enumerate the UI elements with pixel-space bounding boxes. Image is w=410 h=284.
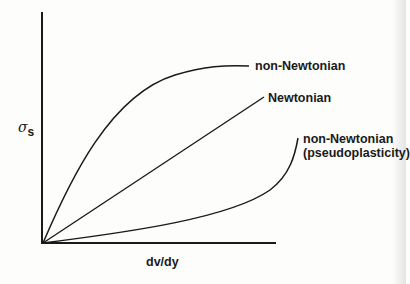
label-newtonian: Newtonian	[268, 91, 331, 105]
curve-pseudoplastic	[43, 138, 298, 243]
label-pseudoplastic-line1: non-Newtonian	[303, 132, 393, 146]
curve-newtonian	[43, 97, 264, 243]
curve-non-newtonian	[43, 66, 249, 243]
label-non-newtonian: non-Newtonian	[255, 59, 345, 73]
y-axis-label: σs	[18, 118, 34, 136]
y-axis-symbol: σ	[18, 119, 28, 135]
y-axis-subscript: s	[28, 125, 35, 139]
label-pseudoplastic-line2: (pseudoplasticity)	[303, 146, 410, 160]
x-axis-label: dv/dy	[146, 255, 179, 269]
